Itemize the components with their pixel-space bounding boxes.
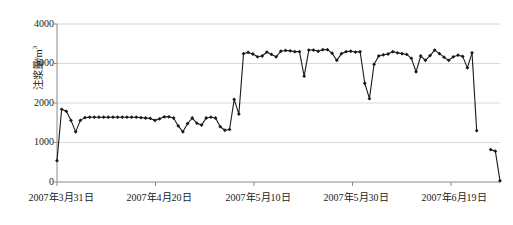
data-point-marker [134,115,138,119]
data-point-marker [88,115,92,119]
data-point-marker [237,112,241,116]
data-point-marker [293,50,297,54]
data-point-marker [368,97,372,101]
data-point-marker [461,54,465,58]
data-series-layer [55,48,502,183]
data-point-marker [302,74,306,78]
data-point-marker [167,115,171,119]
data-point-marker [158,117,162,121]
data-point-marker [209,115,213,119]
data-point-marker [153,118,157,122]
data-point-marker [344,50,348,54]
data-point-marker [74,130,78,134]
data-point-marker [414,70,418,74]
data-point-marker [363,81,367,85]
axes [53,24,500,186]
data-point-marker [111,115,115,119]
data-point-marker [139,116,143,120]
data-point-marker [386,52,390,56]
data-point-marker [60,107,64,111]
series-connector [453,55,458,57]
data-point-marker [246,51,250,55]
series-connector [421,56,426,60]
data-point-marker [321,48,325,52]
data-point-marker [284,49,288,53]
data-point-marker [358,50,362,54]
data-point-marker [270,53,274,57]
data-point-marker [288,49,292,53]
data-point-marker [349,49,353,53]
data-point-marker [232,98,236,102]
data-point-marker [69,118,73,122]
series-connector [472,53,477,131]
data-point-marker [316,49,320,53]
series-line [458,53,472,68]
data-point-marker [354,50,358,54]
data-point-marker [298,50,302,54]
data-point-marker [162,115,166,119]
data-point-marker [391,50,395,54]
data-point-marker [396,51,400,55]
data-point-marker [307,48,311,52]
chart-container: 注浆量/m3 4000 3000 2000 1000 0 2007年3月31日 … [0,0,513,225]
data-point-marker [465,66,469,70]
data-point-marker [382,53,386,57]
data-point-marker [228,128,232,132]
data-point-marker [116,115,120,119]
data-point-marker [125,115,129,119]
data-point-marker [120,115,124,119]
series-line [491,150,500,181]
data-point-marker [64,109,68,113]
gridlines [57,24,500,143]
data-point-marker [148,117,152,121]
x-axis-ticks [57,182,451,186]
data-point-marker [102,115,106,119]
data-point-marker [92,115,96,119]
data-point-marker [400,52,404,56]
data-point-marker [144,116,148,120]
data-point-marker [489,148,493,152]
data-point-marker [130,115,134,119]
data-point-marker [493,149,497,153]
series-line [57,50,421,161]
data-point-marker [97,115,101,119]
data-point-marker [106,115,110,119]
plot-area [0,0,513,225]
y-axis-ticks [53,24,57,182]
data-point-marker [242,52,246,56]
data-point-marker [312,48,316,52]
data-point-marker [55,159,59,163]
